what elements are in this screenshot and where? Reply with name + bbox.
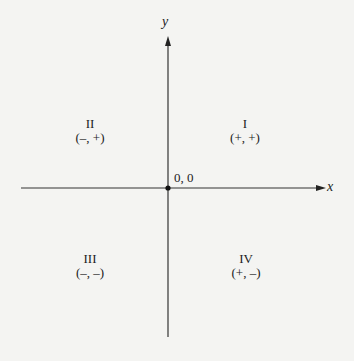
quadrant-iv: IV (+, –) [216, 252, 276, 280]
quadrant-ii: II (–, +) [60, 117, 120, 145]
quadrant-numeral: III [60, 252, 120, 266]
origin-point [165, 185, 170, 190]
quadrant-signs: (+, +) [215, 131, 275, 145]
quadrant-signs: (–, +) [60, 131, 120, 145]
quadrant-signs: (+, –) [216, 266, 276, 280]
quadrant-numeral: IV [216, 252, 276, 266]
x-axis-arrow-icon [316, 185, 326, 191]
quadrant-numeral: II [60, 117, 120, 131]
quadrant-signs: (–, –) [60, 266, 120, 280]
y-axis-label: y [162, 14, 168, 30]
y-axis-arrow-icon [165, 36, 171, 46]
quadrant-i: I (+, +) [215, 117, 275, 145]
quadrant-numeral: I [215, 117, 275, 131]
quadrant-iii: III (–, –) [60, 252, 120, 280]
origin-label: 0, 0 [174, 170, 194, 186]
x-axis-label: x [327, 179, 333, 195]
